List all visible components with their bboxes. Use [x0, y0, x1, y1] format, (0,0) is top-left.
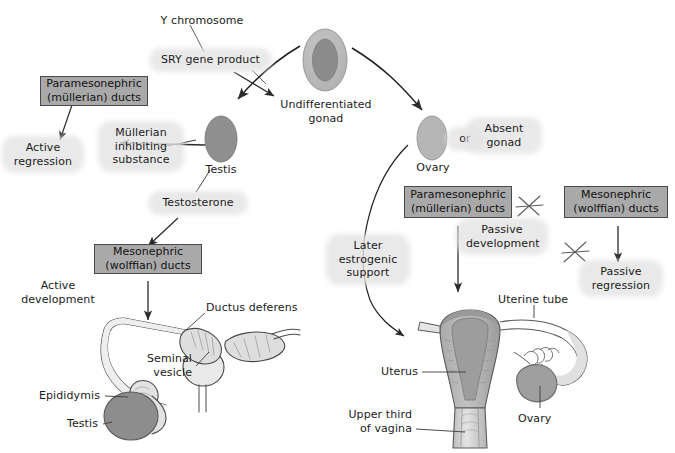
label-ovary-node: Ovary [407, 161, 459, 175]
label-upper-third-of-vagina: Upper third of vagina [338, 408, 412, 435]
box-female-mesonephric-ducts[interactable]: Mesonephric (wolffian) ducts [564, 186, 668, 218]
undifferentiated-gonad-shape [303, 29, 347, 91]
label-ovary-anatomy: Ovary [518, 412, 570, 426]
label-uterine-tube: Uterine tube [498, 293, 582, 307]
male-anatomy-illustration [101, 318, 300, 440]
box-male-paramesonephric-ducts[interactable]: Paramesonephric (müllerian) ducts [40, 76, 148, 106]
label-seminal-vesicle: Seminal vesicle [130, 352, 192, 379]
arrow-ducts-to-active-regression [60, 105, 72, 140]
label-sry-gene-product: SRY gene product [153, 52, 268, 68]
label-passive-regression: Passive regression [583, 264, 659, 293]
box-female-paramesonephric-ducts[interactable]: Paramesonephric (müllerian) ducts [404, 186, 512, 218]
label-passive-development: Passive development [460, 222, 544, 251]
label-undifferentiated-gonad: Undifferentiated gonad [276, 98, 376, 125]
label-testosterone: Testosterone [152, 195, 244, 211]
label-testis-anatomy: Testis [30, 417, 98, 431]
female-anatomy-illustration [418, 310, 587, 448]
ovary-node-shape [417, 116, 447, 160]
diagram-canvas: Y chromosome SRY gene product Undifferen… [0, 0, 675, 453]
box-male-mesonephric-ducts[interactable]: Mesonephric (wolffian) ducts [94, 244, 202, 274]
label-epididymis: Epididymis [20, 389, 100, 403]
label-absent-gonad: Absent gonad [470, 121, 538, 150]
testis-node-shape [205, 116, 237, 162]
diagram-graphics [0, 0, 675, 453]
label-testis-node: Testis [195, 163, 247, 177]
arrow-testosterone-to-mesonephric [148, 218, 178, 246]
arrow-sry-to-testis [234, 72, 274, 96]
label-later-estrogenic-support: Later estrogenic support [330, 238, 406, 281]
blocked-mark-icon-paramesonephric [516, 196, 543, 216]
label-active-development: Active development [20, 279, 96, 306]
label-mullerian-inhibiting-substance: Müllerian inhibiting substance [102, 125, 180, 168]
label-uterus: Uterus [362, 365, 418, 379]
label-active-regression: Active regression [6, 140, 80, 169]
label-ductus-deferens: Ductus deferens [206, 301, 306, 315]
blocked-mark-icon-mesonephric [562, 242, 589, 262]
label-y-chromosome: Y chromosome [155, 14, 249, 28]
